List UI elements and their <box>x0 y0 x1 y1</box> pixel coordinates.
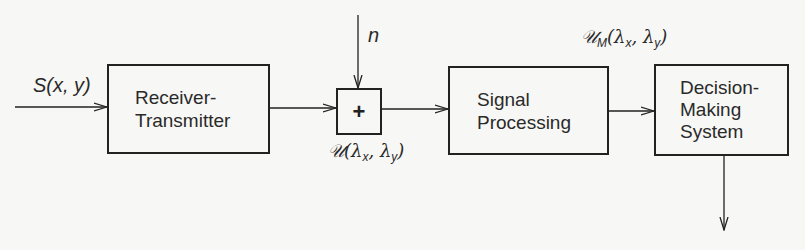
processed-output-label: 𝒰M(λx, λy) <box>581 26 667 50</box>
receiver-transmitter-block: Receiver- Transmitter <box>107 64 270 154</box>
summer-output-label: 𝒰(λx, λy) <box>328 140 404 164</box>
noise-label: n <box>368 24 379 47</box>
signal-processing-block: Signal Processing <box>448 66 609 155</box>
receiver-transmitter-label-line1: Receiver- <box>135 86 230 109</box>
receiver-transmitter-label-line2: Transmitter <box>135 109 230 132</box>
decision-making-block: Decision- Making System <box>654 64 789 156</box>
decision-making-label-line2: Making <box>680 99 759 121</box>
decision-making-label-line1: Decision- <box>680 77 759 99</box>
summer-block: + <box>336 88 382 135</box>
plus-symbol: + <box>353 101 366 123</box>
input-signal-label: S(x, y) <box>33 74 91 97</box>
signal-processing-label-line1: Signal <box>477 88 571 111</box>
signal-processing-label-line2: Processing <box>477 111 571 134</box>
decision-making-label-line3: System <box>680 121 759 143</box>
